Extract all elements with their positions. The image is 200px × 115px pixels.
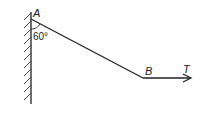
angle-arc: [31, 24, 40, 29]
diagram-canvas: A 60° B T: [0, 0, 200, 115]
wall: [24, 12, 31, 104]
label-point-a: A: [32, 7, 40, 19]
wall-hatching: [24, 13, 31, 100]
rod-ab: [31, 19, 143, 78]
label-angle: 60°: [33, 31, 48, 42]
label-point-b: B: [145, 65, 152, 77]
label-force-t: T: [183, 63, 191, 75]
